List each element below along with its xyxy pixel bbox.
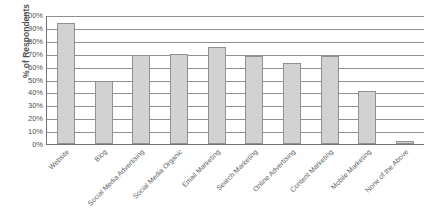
- y-axis-tick-label: 10%: [28, 128, 43, 136]
- x-axis-slot: Website: [46, 146, 84, 220]
- bar-chart: % of Respondents 100%90%80%70%60%50%40%3…: [0, 0, 430, 220]
- bar[interactable]: [283, 63, 301, 144]
- plot-area: [46, 16, 424, 145]
- bar-slot: [386, 16, 424, 144]
- bar[interactable]: [208, 47, 226, 144]
- bar[interactable]: [57, 23, 75, 144]
- bar-slot: [311, 16, 349, 144]
- bar-slot: [160, 16, 198, 144]
- y-axis-tick-label: 30%: [28, 103, 43, 111]
- x-axis-tick-label: Blog: [93, 148, 109, 164]
- bar[interactable]: [245, 56, 263, 144]
- y-axis-tick-labels: 100%90%80%70%60%50%40%30%20%10%0%: [20, 16, 45, 145]
- y-axis-tick-label: 40%: [28, 90, 43, 98]
- y-axis-tick-label: 20%: [28, 115, 43, 123]
- bar-slot: [47, 16, 85, 144]
- chart-title: [0, 0, 430, 1]
- bar[interactable]: [132, 55, 150, 144]
- x-axis-tick-labels: WebsiteBlogSocial Media AdvertisingSocia…: [46, 146, 424, 220]
- bar[interactable]: [95, 81, 113, 144]
- bar-slot: [273, 16, 311, 144]
- bar-series: [47, 16, 424, 144]
- bar[interactable]: [358, 91, 376, 144]
- y-axis-tick-label: 100%: [24, 12, 43, 20]
- bar-slot: [236, 16, 274, 144]
- y-axis-tick-label: 60%: [28, 64, 43, 72]
- x-axis-tick-label: Website: [47, 148, 70, 171]
- y-axis-tick-label: 0%: [32, 141, 43, 149]
- bar-slot: [349, 16, 387, 144]
- bar-slot: [198, 16, 236, 144]
- y-axis-tick-label: 80%: [28, 38, 43, 46]
- bar[interactable]: [321, 56, 339, 144]
- x-axis-slot: None of the Above: [386, 146, 424, 220]
- bar[interactable]: [396, 141, 414, 144]
- y-axis-tick-label: 90%: [28, 25, 43, 33]
- bar[interactable]: [170, 54, 188, 144]
- y-axis-tick-label: 70%: [28, 51, 43, 59]
- y-axis-tick-label: 50%: [28, 77, 43, 85]
- bar-slot: [85, 16, 123, 144]
- bar-slot: [122, 16, 160, 144]
